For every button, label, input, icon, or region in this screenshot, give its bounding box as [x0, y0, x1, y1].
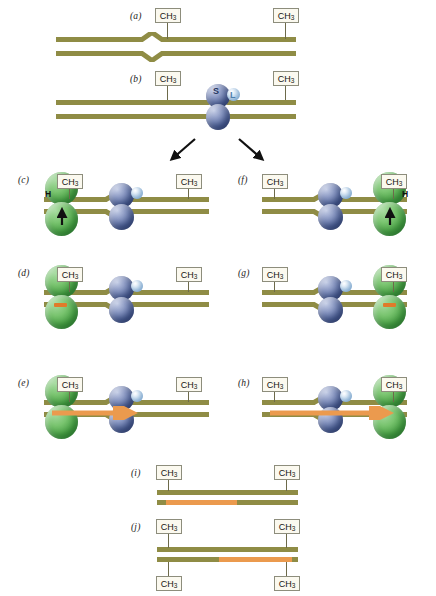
methyl-label-c-left: CH3 — [57, 174, 83, 189]
methyl-stem-j-bottom-right — [286, 562, 287, 576]
mutl-label-b: L — [230, 90, 236, 100]
methyl-label-f-right: CH3 — [381, 174, 407, 189]
muth-label-f: H — [402, 189, 408, 199]
methyl-stem-e-left — [69, 392, 70, 402]
methyl-stem-a-right — [285, 23, 286, 39]
nick-mark-d — [54, 303, 67, 307]
muts-label-b: S — [213, 86, 219, 96]
methyl-label-e-left: CH3 — [57, 377, 83, 392]
methyl-label-h-right: CH3 — [381, 377, 407, 392]
methyl-stem-i-right — [286, 480, 287, 491]
mutl-sphere-h — [340, 390, 352, 402]
methyl-stem-d-right — [188, 282, 189, 292]
right-branch-arrow — [239, 139, 262, 159]
methyl-stem-g-left — [274, 282, 275, 292]
panel-letter-c: (c) — [18, 175, 29, 185]
methyl-stem-e-right — [188, 392, 189, 402]
mutl-sphere-f — [340, 187, 352, 199]
figure-canvas: (a) CH3 CH3 (b) CH3 CH3 S L (c) H CH3 CH… — [0, 0, 436, 596]
muts-sphere-g-bottom — [318, 297, 343, 323]
methyl-label-a-right: CH3 — [273, 8, 299, 23]
methyl-label-j-top-right: CH3 — [274, 519, 300, 534]
muth-sphere-d-bottom — [45, 295, 78, 329]
panel-letter-j: (j) — [131, 522, 141, 532]
incision-arrow-f — [383, 205, 397, 227]
branch-arrows — [160, 138, 280, 168]
muth-label-c: H — [45, 189, 51, 199]
methyl-label-b-right: CH3 — [273, 71, 299, 86]
methyl-stem-a-left — [167, 23, 168, 39]
methyl-label-g-right: CH3 — [381, 267, 407, 282]
panel-letter-i: (i) — [131, 468, 141, 478]
methyl-stem-j-top-right — [286, 534, 287, 548]
methyl-label-j-bottom-right: CH3 — [274, 576, 300, 591]
methyl-stem-j-top-left — [168, 534, 169, 548]
methyl-stem-f-right — [393, 189, 394, 199]
muts-sphere-d-bottom — [109, 297, 134, 323]
dna-top-strand-j — [157, 547, 298, 552]
methyl-label-d-left: CH3 — [57, 267, 83, 282]
methyl-stem-b-right — [285, 86, 286, 100]
dna-top-strand-i — [157, 490, 298, 495]
muth-sphere-g-bottom — [373, 295, 406, 329]
methyl-label-c-right: CH3 — [176, 174, 202, 189]
methyl-label-a-left: CH3 — [155, 8, 181, 23]
methyl-stem-h-left — [274, 392, 275, 402]
mutl-sphere-e — [131, 390, 143, 402]
methyl-label-e-right: CH3 — [176, 377, 202, 392]
methyl-label-j-top-left: CH3 — [156, 519, 182, 534]
methyl-label-b-left: CH3 — [155, 71, 181, 86]
panel-letter-d: (d) — [18, 268, 30, 278]
dna-duplex-a — [56, 32, 296, 62]
methyl-label-f-left: CH3 — [262, 174, 288, 189]
methyl-stem-f-left — [274, 189, 275, 199]
muts-sphere-c-bottom — [109, 204, 134, 230]
panel-letter-b: (b) — [130, 74, 142, 84]
methyl-stem-g-right — [393, 282, 394, 292]
muts-sphere-f-bottom — [318, 204, 343, 230]
methyl-stem-b-left — [167, 86, 168, 100]
panel-letter-f: (f) — [238, 175, 248, 185]
panel-letter-h: (h) — [238, 378, 250, 388]
panel-letter-a: (a) — [130, 11, 142, 21]
panel-letter-e: (e) — [18, 378, 29, 388]
panel-letter-g: (g) — [238, 268, 250, 278]
incision-arrow-c — [55, 205, 69, 227]
nick-mark-g — [383, 303, 396, 307]
muts-sphere-b-bottom — [206, 104, 230, 130]
methyl-label-d-right: CH3 — [176, 267, 202, 282]
repair-arrow-e — [50, 406, 140, 420]
left-branch-arrow — [172, 139, 195, 159]
methyl-label-i-right: CH3 — [274, 465, 300, 480]
mutl-sphere-g — [340, 280, 352, 292]
dna-duplex-b — [56, 95, 296, 125]
repaired-tract-i — [166, 500, 237, 505]
methyl-stem-d-left — [69, 282, 70, 292]
methyl-label-i-left: CH3 — [156, 465, 182, 480]
repaired-tract-j — [219, 557, 292, 562]
repair-arrow-h — [268, 406, 396, 420]
methyl-stem-c-left — [69, 189, 70, 199]
methyl-label-j-bottom-left: CH3 — [156, 576, 182, 591]
mutl-sphere-c — [131, 187, 143, 199]
methyl-stem-j-bottom-left — [168, 562, 169, 576]
methyl-stem-i-left — [168, 480, 169, 491]
methyl-label-g-left: CH3 — [262, 267, 288, 282]
methyl-label-h-left: CH3 — [262, 377, 288, 392]
methyl-stem-h-right — [393, 392, 394, 402]
methyl-stem-c-right — [188, 189, 189, 199]
mutl-sphere-d — [131, 280, 143, 292]
